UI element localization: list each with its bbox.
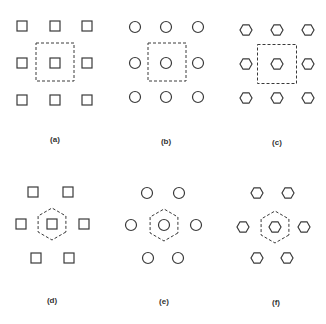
circle-element [142,188,153,199]
square-element [64,253,74,263]
hexagon-element [298,222,310,232]
circle-element [161,58,172,69]
hexagon-element [240,25,252,35]
unit-cell-hexagon [150,209,178,241]
square-element [31,253,41,263]
hexagon-element [251,253,263,263]
square-element [50,21,60,31]
circle-element [193,22,204,33]
circle-element [130,92,141,103]
square-element [50,58,60,68]
square-element [50,95,60,105]
panel-label-e: (e) [159,297,169,306]
square-element [82,21,92,31]
hexagon-element [302,59,314,69]
hexagon-element [281,253,293,263]
hexagon-element [302,93,314,103]
panel-d [16,187,89,263]
circle-element [174,188,185,199]
panel-e [126,188,202,264]
hexagon-element [237,222,249,232]
unit-cell-square [148,43,186,81]
circle-element [173,253,184,264]
hexagon-element [269,222,281,232]
hexagon-element [271,93,283,103]
circle-element [193,92,204,103]
circle-element [143,253,154,264]
circle-element [130,58,141,69]
circle-element [191,220,202,231]
unit-cell-hexagon [38,208,66,240]
circle-element [161,22,172,33]
panel-label-c: (c) [272,138,282,147]
panel-label-b: (b) [161,137,171,146]
hexagon-element [302,25,314,35]
panel-c [240,25,314,103]
unit-cell-square [258,45,297,84]
hexagon-element [271,59,283,69]
square-element [82,58,92,68]
square-element [63,187,73,197]
circle-element [130,22,141,33]
square-element [82,95,92,105]
square-element [17,21,27,31]
circle-element [193,58,204,69]
panel-label-f: (f) [272,298,280,307]
panel-label-d: (d) [47,296,57,305]
hexagon-element [240,59,252,69]
hexagon-element [251,188,263,198]
panel-f [237,188,310,263]
square-element [79,219,89,229]
circle-element [161,92,172,103]
square-element [17,95,27,105]
circle-element [126,220,137,231]
square-element [47,219,57,229]
unit-cell-square [36,43,74,81]
lattice-arrangement-figure [0,0,326,324]
hexagon-element [282,188,294,198]
circle-element [159,220,170,231]
square-element [28,187,38,197]
hexagon-element [240,93,252,103]
panel-label-a: (a) [50,135,60,144]
unit-cell-hexagon [261,211,289,243]
panel-b [130,22,204,103]
panel-a [17,21,92,105]
square-element [17,58,27,68]
hexagon-element [271,25,283,35]
square-element [16,219,26,229]
